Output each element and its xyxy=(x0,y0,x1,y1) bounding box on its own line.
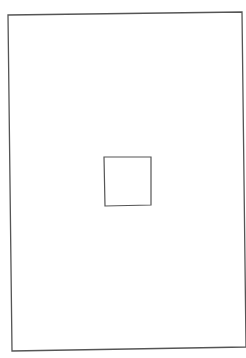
inner-square xyxy=(104,157,151,206)
diagram-canvas xyxy=(0,0,246,358)
outer-rectangle xyxy=(8,12,246,351)
